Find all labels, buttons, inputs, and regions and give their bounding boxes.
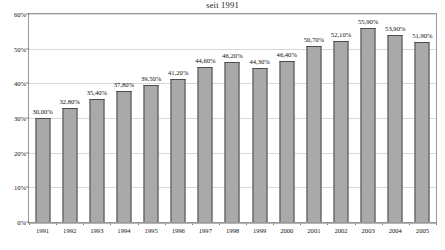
x-axis-tick-label: 1999 (253, 227, 266, 235)
bar-group: 46,40% (273, 14, 300, 222)
x-axis-tick-label: 1995 (145, 227, 158, 235)
x-axis-tick-label: 2001 (307, 227, 320, 235)
bar[interactable] (171, 79, 186, 222)
bar-value-label: 39,50% (141, 75, 161, 83)
bar[interactable] (252, 68, 267, 222)
x-axis-tick-label: 2000 (280, 227, 293, 235)
bar-group: 52,10% (327, 14, 354, 222)
bar[interactable] (144, 85, 159, 222)
bar[interactable] (306, 46, 321, 222)
bar[interactable] (116, 91, 131, 222)
y-axis-tick-label: 0% (17, 219, 26, 226)
bar-value-label: 46,20% (222, 52, 242, 60)
bar-value-label: 30,00% (32, 108, 52, 116)
x-axis-tick-label: 1991 (36, 227, 49, 235)
x-axis-tick-label: 1996 (172, 227, 185, 235)
bar[interactable] (225, 62, 240, 222)
bar-value-label: 35,40% (87, 89, 107, 97)
x-axis-tick-label: 1997 (199, 227, 212, 235)
bar-value-label: 32,80% (60, 98, 80, 106)
x-axis-tick-label: 2002 (334, 227, 347, 235)
x-axis-tick-label: 1992 (63, 227, 76, 235)
bar[interactable] (35, 118, 50, 222)
y-axis-tick-label: 30% (14, 115, 26, 122)
bar-group: 46,20% (219, 14, 246, 222)
bar-group: 44,60% (192, 14, 219, 222)
chart-title: seit 1991 (0, 0, 445, 11)
bar-group: 53,90% (382, 14, 409, 222)
bars-layer: 30,00%32,80%35,40%37,80%39,50%41,20%44,6… (29, 14, 436, 222)
bar[interactable] (62, 108, 77, 222)
bar-value-label: 52,10% (331, 31, 351, 39)
x-axis-tick-label: 2005 (416, 227, 429, 235)
bar-group: 50,70% (300, 14, 327, 222)
y-axis-tick-label: 20% (14, 149, 26, 156)
bar-value-label: 37,80% (114, 81, 134, 89)
x-axis-separator (28, 223, 437, 224)
bar-group: 37,80% (110, 14, 137, 222)
bar[interactable] (198, 67, 213, 222)
y-axis-tick-label: 60% (14, 11, 26, 18)
plot-area: 0%10%20%30%40%50%60% 30,00%32,80%35,40%3… (28, 13, 437, 223)
bar[interactable] (279, 61, 294, 222)
bar[interactable] (361, 28, 376, 222)
bar-value-label: 44,60% (195, 57, 215, 65)
bar-group: 30,00% (29, 14, 56, 222)
x-axis-tick-label: 2004 (389, 227, 402, 235)
bar[interactable] (388, 35, 403, 222)
bar[interactable] (89, 99, 104, 222)
bar[interactable] (334, 41, 349, 222)
bar-value-label: 46,40% (277, 51, 297, 59)
bar[interactable] (415, 42, 430, 222)
bar-group: 35,40% (83, 14, 110, 222)
x-axis-tick-label: 2003 (362, 227, 375, 235)
bar-group: 44,30% (246, 14, 273, 222)
bar-group: 32,80% (56, 14, 83, 222)
bar-value-label: 55,90% (358, 18, 378, 26)
bar-value-label: 44,30% (249, 58, 269, 66)
y-axis-tick-label: 50% (14, 45, 26, 52)
bar-chart: seit 1991 0%10%20%30%40%50%60% 30,00%32,… (0, 0, 445, 250)
bar-group: 55,90% (355, 14, 382, 222)
bar-value-label: 53,90% (385, 25, 405, 33)
bar-value-label: 41,20% (168, 69, 188, 77)
bar-group: 51,90% (409, 14, 436, 222)
bar-group: 39,50% (138, 14, 165, 222)
y-axis-tick-label: 10% (14, 184, 26, 191)
bar-value-label: 50,70% (304, 36, 324, 44)
y-axis-tick-label: 40% (14, 80, 26, 87)
bar-group: 41,20% (165, 14, 192, 222)
x-axis-tick-label: 1994 (117, 227, 130, 235)
x-axis-tick-label: 1998 (226, 227, 239, 235)
bar-value-label: 51,90% (412, 32, 432, 40)
x-axis-tick-label: 1993 (90, 227, 103, 235)
